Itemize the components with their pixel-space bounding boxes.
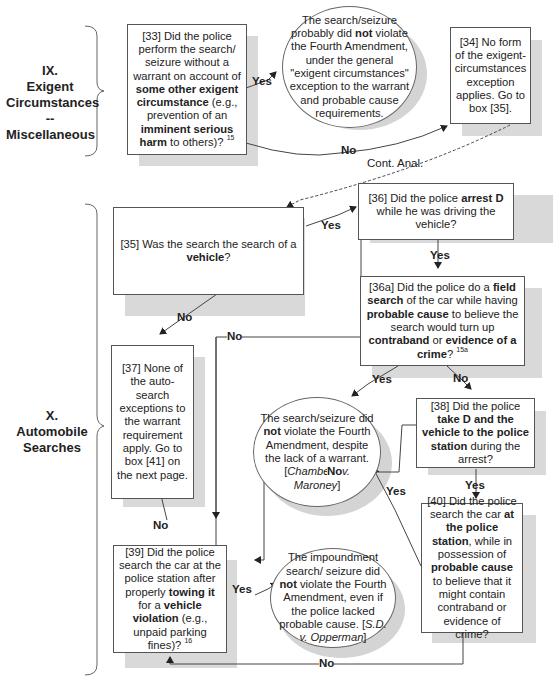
section-title-line: Circumstances --: [6, 95, 94, 127]
node-36a: [36a] Did the police do a field search o…: [360, 276, 525, 366]
edge-label-33-no: No: [341, 144, 356, 156]
edge-label-39-yes: Yes: [232, 583, 252, 595]
node-39: [39] Did the police search the car at th…: [113, 545, 227, 653]
section-label-ix: IX. Exigent Circumstances -- Miscellaneo…: [6, 63, 94, 143]
section-label-x: X. Automobile Searches: [12, 408, 92, 456]
edge-label-36a-no: No: [453, 372, 468, 384]
section-title-line: Automobile: [12, 424, 92, 440]
node-33: [33] Did the police perform the search/ …: [127, 24, 247, 155]
section-number: X.: [12, 408, 92, 424]
edge-label-40-no: No: [319, 657, 334, 669]
section-number: IX.: [6, 63, 94, 79]
section-title-line: Exigent: [6, 79, 94, 95]
outcome-exigent-circumstances: The search/seizure probably did not viol…: [282, 6, 417, 128]
edge-label-36-yes: Yes: [430, 249, 450, 261]
node-36: [36] Did the police arrest D while he wa…: [358, 183, 514, 240]
section-title-line: Searches: [12, 440, 92, 456]
node-34: [34] No form of the exigent-circumstance…: [450, 27, 531, 124]
edge-label-33-yes: Yes: [252, 75, 272, 87]
edge-label-36a-yes: Yes: [372, 373, 392, 385]
flowchart-canvas: IX. Exigent Circumstances -- Miscellaneo…: [0, 0, 553, 679]
edge-label-35-yes: Yes: [321, 219, 341, 231]
edge-label-35-no: No: [177, 311, 192, 323]
node-37: [37] None of the auto-search exceptions …: [111, 345, 194, 499]
edge-label-36-no: No: [227, 330, 242, 342]
node-38: [38] Did the police take D and the vehic…: [416, 398, 535, 468]
node-40: [40] Did the police search the car at th…: [421, 503, 523, 633]
section-title-line: Miscellaneous: [6, 127, 94, 143]
edge-label-38-no: No: [327, 465, 342, 477]
outcome-sd-v-opperman: The impoundment search/ seizure did not …: [270, 548, 396, 648]
edge-label-cont-anal: Cont. Anal.: [367, 157, 423, 169]
edge-label-40-yes: Yes: [386, 485, 406, 497]
outcome-chambers-v-maroney: The search/seizure did not violate the F…: [253, 397, 381, 507]
edge-label-39-no: No: [153, 519, 168, 531]
edge-label-38-yes: Yes: [465, 479, 485, 491]
node-35: [35] Was the search the search of a vehi…: [113, 207, 304, 295]
